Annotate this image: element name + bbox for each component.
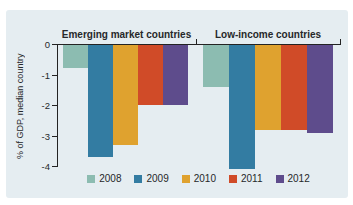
y-tick-label: 0 <box>26 40 50 50</box>
legend-item-2012: 2012 <box>276 174 310 184</box>
legend-swatch-2009 <box>134 175 142 183</box>
legend-swatch-2012 <box>276 175 284 183</box>
bar-2011-emerging-market-countries <box>138 45 163 105</box>
legend-swatch-2010 <box>182 175 190 183</box>
legend-item-2008: 2008 <box>87 174 121 184</box>
bar-2012-emerging-market-countries <box>163 45 188 105</box>
bar-2009-emerging-market-countries <box>88 45 113 157</box>
bar-2008-emerging-market-countries <box>63 45 88 68</box>
legend-swatch-2011 <box>229 175 237 183</box>
axis-end-tick <box>340 39 341 45</box>
legend-item-2010: 2010 <box>182 174 216 184</box>
bar-2008-low-income-countries <box>203 45 229 87</box>
y-axis-line <box>57 44 58 167</box>
y-tick-label: -3 <box>26 132 50 142</box>
bar-2010-emerging-market-countries <box>113 45 138 145</box>
bar-2012-low-income-countries <box>307 45 333 133</box>
y-tick-label: -1 <box>26 71 50 81</box>
group-title-low-income-countries: Low-income countries <box>215 29 321 40</box>
legend-swatch-2008 <box>87 175 95 183</box>
y-tick-label: -4 <box>26 162 50 172</box>
bar-2011-low-income-countries <box>281 45 307 130</box>
legend-label-2012: 2012 <box>288 174 310 184</box>
legend-label-2011: 2011 <box>241 174 263 184</box>
bar-2009-low-income-countries <box>229 45 255 169</box>
legend-label-2009: 2009 <box>146 174 168 184</box>
chart-panel: % of GDP, median country Emerging market… <box>6 10 348 198</box>
legend: 20082009201020112012 <box>57 174 340 184</box>
figure: % of GDP, median country Emerging market… <box>0 0 353 205</box>
y-tick-label: -2 <box>26 101 50 111</box>
bar-2010-low-income-countries <box>255 45 281 130</box>
group-title-emerging-market-countries: Emerging market countries <box>62 29 191 40</box>
group-separator-tick <box>196 39 197 45</box>
zero-line <box>57 44 341 45</box>
legend-item-2011: 2011 <box>229 174 263 184</box>
legend-item-2009: 2009 <box>134 174 168 184</box>
legend-label-2010: 2010 <box>194 174 216 184</box>
legend-label-2008: 2008 <box>99 174 121 184</box>
